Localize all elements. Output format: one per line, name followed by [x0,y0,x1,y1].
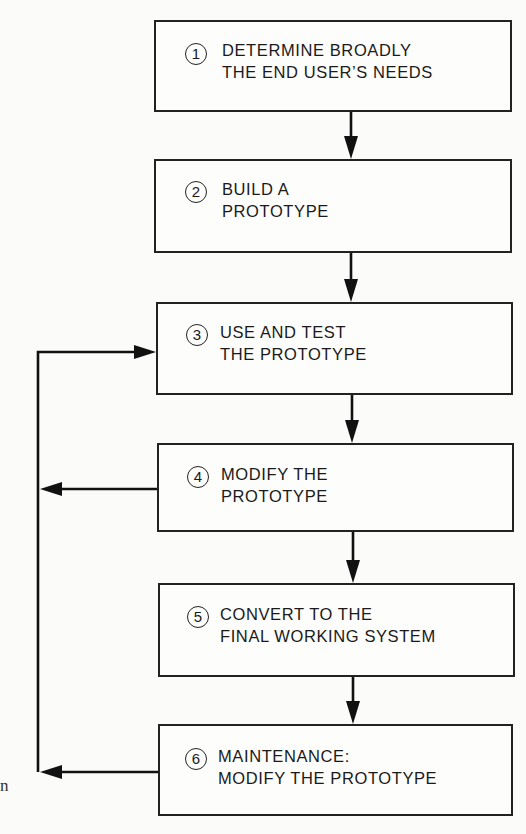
step-label-line1: DETERMINE BROADLY [222,39,433,61]
arrowhead-from-6 [40,765,62,779]
connector-lines [0,0,526,834]
step-box-4: 4 MODIFY THE PROTOTYPE [157,443,514,532]
step-label-line1: CONVERT TO THE [220,603,436,625]
step-number-circle: 6 [185,748,207,770]
arrowhead-4-to-5 [346,560,360,583]
step-label: USE AND TEST THE PROTOTYPE [220,321,367,365]
step-label: CONVERT TO THE FINAL WORKING SYSTEM [220,603,436,647]
step-label-line2: THE END USER’S NEEDS [222,61,433,83]
step-box-6: 6 MAINTENANCE: MODIFY THE PROTOTYPE [158,724,513,816]
step-label-line2: MODIFY THE PROTOTYPE [218,767,437,789]
arrowhead-2-to-3 [344,279,358,302]
step-label-line2: PROTOTYPE [222,200,329,222]
step-label-line2: FINAL WORKING SYSTEM [220,625,436,647]
arrowhead-1-to-2 [344,136,358,159]
step-number-circle: 4 [187,466,209,488]
arrowhead-3-to-4 [345,420,359,443]
arrowhead-from-4 [40,482,62,496]
step-label: DETERMINE BROADLY THE END USER’S NEEDS [222,39,433,83]
step-label: BUILD A PROTOTYPE [222,178,329,222]
step-label-line1: BUILD A [222,178,329,200]
step-number-circle: 5 [187,606,209,628]
step-box-5: 5 CONVERT TO THE FINAL WORKING SYSTEM [158,583,515,677]
step-label-line1: MAINTENANCE: [218,745,437,767]
step-label-line1: USE AND TEST [220,321,367,343]
step-number-circle: 2 [185,181,207,203]
step-box-2: 2 BUILD A PROTOTYPE [154,159,512,253]
step-box-3: 3 USE AND TEST THE PROTOTYPE [156,302,513,395]
margin-text-fragment: n [0,776,9,796]
arrowhead-into-3 [134,345,156,359]
step-label: MAINTENANCE: MODIFY THE PROTOTYPE [218,745,437,789]
step-number-circle: 3 [186,324,208,346]
arrowhead-5-to-6 [346,701,360,724]
step-label: MODIFY THE PROTOTYPE [221,463,328,507]
step-label-line1: MODIFY THE [221,463,328,485]
step-box-1: 1 DETERMINE BROADLY THE END USER’S NEEDS [154,20,512,112]
step-label-line2: THE PROTOTYPE [220,343,367,365]
feedback-loop-line [38,352,158,772]
step-label-line2: PROTOTYPE [221,485,328,507]
step-number-circle: 1 [185,43,207,65]
